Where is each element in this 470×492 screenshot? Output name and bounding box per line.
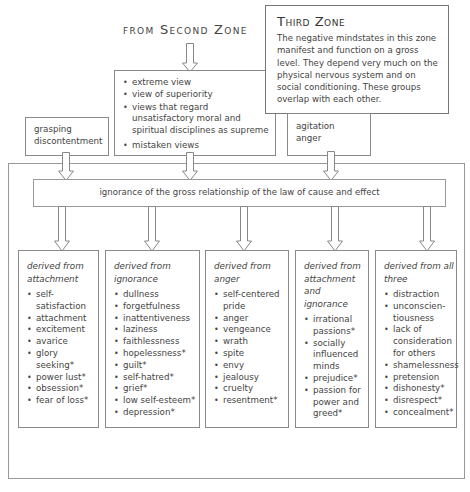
column-heading: derived from all three (384, 260, 454, 285)
column-list: dullness forgetfulness inattentiveness l… (114, 289, 197, 419)
list-item: excitement (27, 324, 96, 336)
discontentment-label: discontentment (34, 135, 108, 147)
central-bar: ignorance of the gross relationship of t… (33, 179, 446, 207)
list-item: avarice (27, 336, 96, 348)
third-zone-title: Third Zone (277, 14, 440, 29)
list-item: socially influenced minds (304, 338, 366, 373)
list-item: concealment* (384, 407, 454, 419)
column-heading: derived from attachment (27, 260, 96, 285)
from-second-zone-heading: from Second Zone (123, 22, 248, 37)
list-item: lack of consideration for others (384, 324, 454, 359)
column-attachment-and-ignorance: derived from attachment and ignorance ir… (295, 250, 369, 428)
list-item: grief* (114, 383, 197, 395)
column-list: irrational passions* socially influenced… (304, 314, 366, 420)
central-bar-label: ignorance of the gross relationship of t… (34, 187, 445, 197)
list-item: low self-esteem* (114, 395, 197, 407)
list-item: self-centered pride (214, 289, 286, 313)
list-item: depression* (114, 407, 197, 419)
list-item: pretension (384, 372, 454, 384)
agitation-label: agitation (296, 120, 370, 132)
third-zone-description: The negative mindstates in this zone man… (277, 32, 440, 106)
list-item: glory seeking* (27, 348, 96, 372)
list-item: fear of loss* (27, 395, 96, 407)
grasping-box: grasping discontentment (25, 117, 109, 156)
column-ignorance: derived from ignorance dullness forgetfu… (105, 250, 200, 428)
list-item: resentment* (214, 395, 286, 407)
list-item: extreme view (123, 77, 269, 89)
list-item: laziness (114, 324, 197, 336)
arrow-down-icon (327, 206, 343, 252)
grasping-label: grasping (34, 123, 108, 135)
list-item: prejudice* (304, 373, 366, 385)
views-list: extreme view view of superiority views t… (123, 77, 269, 152)
agitation-box: agitation anger (287, 113, 371, 156)
list-item: unconscien-tiousness (384, 301, 454, 325)
column-anger: derived from anger self-centered pride a… (205, 250, 289, 428)
list-item: passion for power and greed* (304, 385, 366, 420)
list-item: guilt* (114, 360, 197, 372)
list-item: dishonesty* (384, 383, 454, 395)
arrow-down-icon (54, 206, 70, 252)
list-item: vengeance (214, 324, 286, 336)
arrow-down-icon (182, 152, 198, 182)
list-item: envy (214, 360, 286, 372)
list-item: attachment (27, 313, 96, 325)
column-heading: derived from ignorance (114, 260, 197, 285)
list-item: faithlessness (114, 336, 197, 348)
arrow-down-icon (323, 151, 339, 182)
arrow-down-icon (144, 206, 160, 252)
list-item: view of superiority (123, 89, 269, 101)
list-item: views that regard unsatisfactory moral a… (123, 102, 269, 137)
column-list: self-satisfaction attachment excitement … (27, 289, 96, 407)
arrow-down-icon (419, 206, 435, 252)
column-list: self-centered pride anger vengeance wrat… (214, 289, 286, 407)
list-item: spite (214, 348, 286, 360)
third-zone-box: Third Zone The negative mindstates in th… (265, 5, 449, 114)
list-item: jealousy (214, 372, 286, 384)
anger-label: anger (296, 132, 370, 144)
column-all-three: derived from all three distraction uncon… (375, 250, 457, 428)
arrow-down-icon (182, 43, 198, 73)
arrow-down-icon (58, 152, 74, 182)
list-item: disrespect* (384, 395, 454, 407)
list-item: anger (214, 313, 286, 325)
list-item: distraction (384, 289, 454, 301)
list-item: inattentiveness (114, 313, 197, 325)
list-item: self-hatred* (114, 372, 197, 384)
list-item: power lust* (27, 372, 96, 384)
column-list: distraction unconscien-tiousness lack of… (384, 289, 454, 419)
list-item: shamelessness (384, 360, 454, 372)
column-attachment: derived from attachment self-satisfactio… (18, 250, 99, 428)
list-item: dullness (114, 289, 197, 301)
list-item: obsession* (27, 383, 96, 395)
list-item: self-satisfaction (27, 289, 96, 313)
list-item: mistaken views (123, 140, 269, 152)
list-item: hopelessness* (114, 348, 197, 360)
list-item: wrath (214, 336, 286, 348)
list-item: irrational passions* (304, 314, 366, 338)
column-heading: derived from attachment and ignorance (304, 260, 366, 310)
list-item: cruelty (214, 383, 286, 395)
list-item: forgetfulness (114, 301, 197, 313)
views-box: extreme view view of superiority views t… (114, 70, 276, 156)
arrow-down-icon (236, 206, 252, 252)
column-heading: derived from anger (214, 260, 286, 285)
